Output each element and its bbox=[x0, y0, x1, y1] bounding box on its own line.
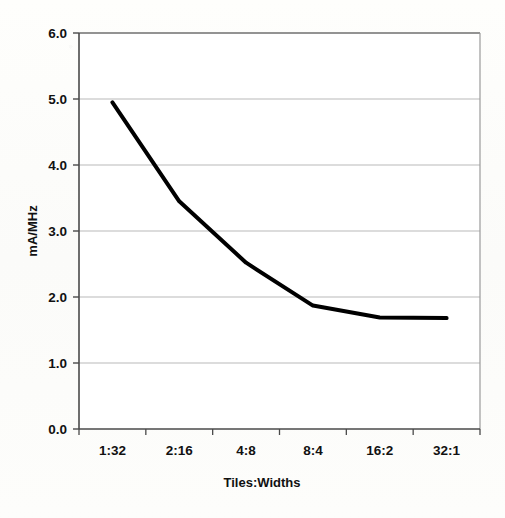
line-chart: 0.01.02.03.04.05.06.0 1:322:164:88:416:2… bbox=[0, 0, 505, 518]
chart-figure: 0.01.02.03.04.05.06.0 1:322:164:88:416:2… bbox=[0, 0, 505, 518]
y-tick-label: 5.0 bbox=[48, 92, 67, 107]
y-axis: 0.01.02.03.04.05.06.0 bbox=[48, 26, 79, 437]
y-tick-label: 1.0 bbox=[48, 356, 67, 371]
x-tick-label: 4:8 bbox=[236, 443, 256, 458]
x-tick-label: 2:16 bbox=[166, 443, 194, 458]
y-tick-label: 4.0 bbox=[48, 158, 67, 173]
y-tick-label: 0.0 bbox=[48, 422, 67, 437]
y-tick-label: 2.0 bbox=[48, 290, 67, 305]
y-tick-label: 3.0 bbox=[48, 224, 67, 239]
y-axis-title: mA/MHz bbox=[25, 205, 40, 257]
x-axis: 1:322:164:88:416:232:1 bbox=[79, 429, 480, 458]
x-axis-title: Tiles:Widths bbox=[224, 475, 301, 490]
x-tick-label: 32:1 bbox=[433, 443, 461, 458]
x-tick-label: 8:4 bbox=[303, 443, 323, 458]
x-tick-label: 1:32 bbox=[99, 443, 126, 458]
y-tick-label: 6.0 bbox=[48, 26, 67, 41]
x-tick-label: 16:2 bbox=[366, 443, 393, 458]
